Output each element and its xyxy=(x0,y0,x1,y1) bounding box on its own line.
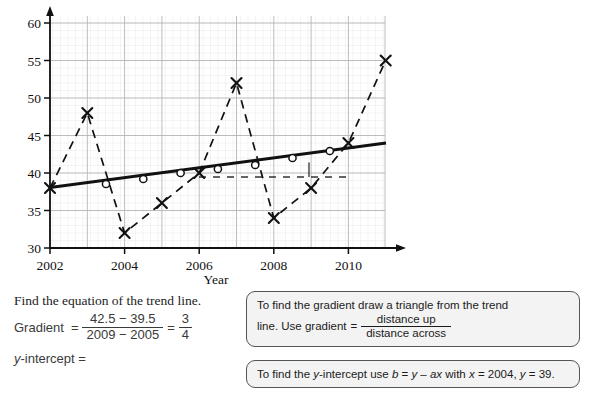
hint-gradient-numerator: distance up xyxy=(372,313,441,326)
x-tick-2006: 2006 xyxy=(186,258,213,273)
y-tick-45: 45 xyxy=(28,129,42,144)
y-tick-60: 60 xyxy=(28,16,42,31)
y-intercept-line: y-intercept = xyxy=(14,351,246,366)
hint-intercept-text: To find the y-intercept use b = y – ax w… xyxy=(257,368,555,380)
hint-gradient-fraction: distance up distance across xyxy=(361,313,451,340)
marker-circle-2008 xyxy=(252,161,259,168)
gradient-label: Gradient xyxy=(14,320,64,335)
hint-gradient-equals: = xyxy=(351,320,358,332)
solution-prompt: Find the equation of the trend line. xyxy=(14,293,246,309)
worked-solution: Find the equation of the trend line. Gra… xyxy=(14,293,246,366)
x-tick-2010: 2010 xyxy=(335,258,362,273)
hint-gradient-line1: To find the gradient draw a triangle fro… xyxy=(257,298,569,312)
x-axis-title: Year xyxy=(204,272,229,285)
y-tick-50: 50 xyxy=(28,91,42,106)
marker-circle-2010 xyxy=(326,147,333,154)
marker-circle-2004 xyxy=(102,180,109,187)
x-tick-2002: 2002 xyxy=(37,258,64,273)
production-trend-chart: 60 55 50 45 40 35 30 2002 2004 2006 2008… xyxy=(0,0,420,285)
y-axis-tick-labels: 60 55 50 45 40 35 30 xyxy=(28,16,42,256)
hint-gradient-denominator: distance across xyxy=(361,326,451,340)
marker-circle-2006 xyxy=(177,169,184,176)
x-axis-tick-labels: 2002 2004 2006 2008 2010 xyxy=(37,258,363,273)
gradient-result-fraction: 3 4 xyxy=(179,312,192,342)
y-intercept-text: -intercept = xyxy=(21,351,86,366)
gradient-fraction: 42.5 − 39.5 2009 − 2005 xyxy=(82,312,163,342)
hint-gradient-prefix: line. Use gradient xyxy=(257,320,347,332)
gradient-equals-1: = xyxy=(71,320,79,335)
chart-canvas: 60 55 50 45 40 35 30 2002 2004 2006 2008… xyxy=(0,0,420,285)
gradient-working: Gradient = 42.5 − 39.5 2009 − 2005 = 3 4 xyxy=(14,312,246,342)
y-tick-35: 35 xyxy=(28,204,42,219)
x-tick-2008: 2008 xyxy=(260,258,287,273)
gradient-equals-2: = xyxy=(167,320,175,335)
gradient-denominator: 2009 − 2005 xyxy=(82,327,163,343)
gradient-result-numerator: 3 xyxy=(179,312,192,327)
x-tick-2004: 2004 xyxy=(111,258,138,273)
gradient-result-denominator: 4 xyxy=(179,327,192,343)
marker-circle-2007 xyxy=(214,165,221,172)
y-tick-55: 55 xyxy=(28,54,42,69)
hint-callout-gradient: To find the gradient draw a triangle fro… xyxy=(246,291,580,347)
gradient-numerator: 42.5 − 39.5 xyxy=(86,312,159,327)
y-tick-40: 40 xyxy=(28,166,42,181)
chart-gridlines xyxy=(50,16,385,249)
y-tick-30: 30 xyxy=(28,241,42,256)
hint-callout-intercept: To find the y-intercept use b = y – ax w… xyxy=(246,360,580,388)
hint-gradient-line2: line. Use gradient = distance up distanc… xyxy=(257,313,569,340)
marker-circle-2009 xyxy=(289,154,296,161)
marker-circle-2005 xyxy=(140,175,147,182)
